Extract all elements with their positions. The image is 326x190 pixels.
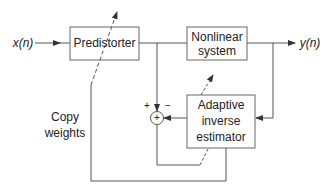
minus-sign: − <box>163 99 173 113</box>
adaptive-label-2: inverse <box>187 114 255 128</box>
adaptive-label-1: Adaptive <box>187 98 255 112</box>
output-feedback-line <box>256 43 273 118</box>
nonlinear-label-1: Nonlinear <box>187 30 247 44</box>
nonlinear-label-2: system <box>187 44 247 58</box>
copy-weights-label-1: Copy <box>40 110 90 124</box>
input-label: x(n) <box>10 36 36 50</box>
estimator-adapt-arrow <box>201 75 213 95</box>
output-label: y(n) <box>297 36 323 50</box>
copy-weights-label-2: weights <box>40 126 90 140</box>
plus-sign: + <box>142 99 152 113</box>
predistorter-label: Predistorter <box>70 36 139 50</box>
block-diagram-canvas <box>0 0 326 190</box>
error-adapt-dashed-line <box>200 149 208 165</box>
sum-symbol: + <box>151 111 163 125</box>
adaptive-label-3: estimator <box>187 130 255 144</box>
